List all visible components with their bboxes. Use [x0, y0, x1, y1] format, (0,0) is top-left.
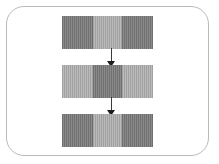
bottom-bar-segment-right [122, 114, 153, 147]
middle-bar [62, 65, 153, 98]
bottom-bar-segment-left [62, 114, 93, 147]
top-bar-segment-center [93, 16, 122, 49]
bottom-bar-segment-center [93, 114, 122, 147]
diagram-canvas [0, 0, 219, 164]
top-bar-segment-right [122, 16, 153, 49]
bar-stack [0, 0, 219, 164]
bottom-bar [62, 114, 153, 147]
middle-bar-segment-center [93, 65, 122, 98]
top-bar-segment-left [62, 16, 93, 49]
middle-bar-segment-left [62, 65, 93, 98]
middle-bar-segment-right [122, 65, 153, 98]
top-bar [62, 16, 153, 49]
